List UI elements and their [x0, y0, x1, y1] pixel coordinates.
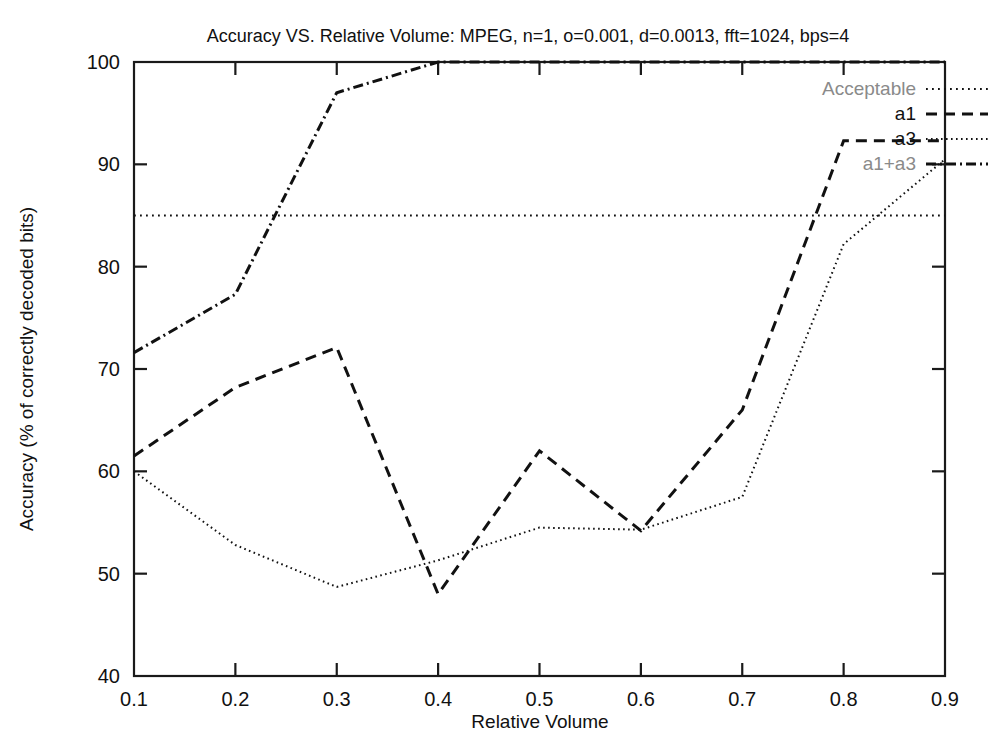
x-tick-label: 0.2	[221, 688, 249, 710]
x-tick-label: 0.6	[627, 688, 655, 710]
y-tick-label: 40	[98, 665, 120, 687]
x-tick-label: 0.7	[728, 688, 756, 710]
y-axis: 405060708090100	[87, 51, 945, 687]
plot-frame	[134, 62, 945, 676]
legend-label-acceptable: Acceptable	[822, 78, 916, 99]
y-tick-label: 90	[98, 153, 120, 175]
y-tick-label: 100	[87, 51, 120, 73]
y-tick-label: 60	[98, 460, 120, 482]
x-tick-label: 0.1	[120, 688, 148, 710]
chart-title: Accuracy VS. Relative Volume: MPEG, n=1,…	[207, 26, 850, 46]
x-tick-label: 0.9	[931, 688, 959, 710]
chart-legend: Acceptablea1a3a1+a3	[822, 78, 988, 174]
x-axis: 0.10.20.30.40.50.60.70.80.9	[120, 62, 959, 710]
chart-container: Accuracy VS. Relative Volume: MPEG, n=1,…	[0, 0, 1003, 756]
legend-label-a1: a1	[895, 103, 916, 124]
x-tick-label: 0.4	[424, 688, 452, 710]
x-axis-title: Relative Volume	[471, 711, 608, 732]
series-layer	[134, 62, 945, 594]
x-tick-label: 0.8	[830, 688, 858, 710]
y-axis-title: Accuracy (% of correctly decoded bits)	[16, 207, 37, 531]
legend-label-a3: a3	[895, 128, 916, 149]
y-tick-label: 50	[98, 563, 120, 585]
y-tick-label: 70	[98, 358, 120, 380]
series-line-a1-a3	[134, 62, 945, 353]
series-line-a3	[134, 159, 945, 587]
y-tick-label: 80	[98, 256, 120, 278]
x-tick-label: 0.3	[323, 688, 351, 710]
line-chart: Accuracy VS. Relative Volume: MPEG, n=1,…	[0, 0, 1003, 756]
series-line-a1	[134, 141, 945, 594]
x-tick-label: 0.5	[526, 688, 554, 710]
legend-label-a1-a3: a1+a3	[863, 153, 916, 174]
